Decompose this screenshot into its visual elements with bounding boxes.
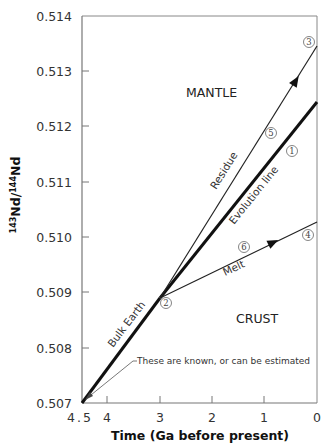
bulk-earth-line xyxy=(82,298,160,403)
svg-text:1: 1 xyxy=(289,146,294,156)
y-tick-label: 0.512 xyxy=(36,119,72,134)
svg-text:4: 4 xyxy=(305,230,310,240)
svg-text:2: 2 xyxy=(163,298,168,308)
melt-arrow-icon xyxy=(266,236,280,249)
y-axis-tick-labels: 0.514 0.513 0.512 0.511 0.510 0.509 0.50… xyxy=(36,9,72,411)
marker-2: 2 xyxy=(161,298,172,309)
x-tick-label: 4 xyxy=(103,410,111,425)
y-tick-label: 0.513 xyxy=(36,64,72,79)
svg-text:6: 6 xyxy=(241,242,246,252)
x-tick-label: 2 xyxy=(208,410,216,425)
marker-3: 3 xyxy=(304,37,315,48)
evolution-line-label: Evolution line xyxy=(226,163,280,226)
nd-isotope-evolution-chart: 0.514 0.513 0.512 0.511 0.510 0.509 0.50… xyxy=(0,0,332,443)
marker-6: 6 xyxy=(239,242,250,253)
x-axis-ticks xyxy=(107,396,264,403)
y-tick-label: 0.510 xyxy=(36,230,72,245)
svg-text:3: 3 xyxy=(306,37,311,47)
marker-5: 5 xyxy=(266,128,277,139)
y-tick-label: 0.511 xyxy=(36,175,72,190)
y-axis-ticks xyxy=(82,71,89,348)
x-axis-title: Time (Ga before present) xyxy=(111,428,289,443)
x-axis-tick-labels: 4.5 4 3 2 1 0 xyxy=(67,410,321,425)
marker-4: 4 xyxy=(303,230,314,241)
residue-label: Residue xyxy=(208,150,240,192)
x-tick-label: 4.5 xyxy=(67,410,93,425)
y-tick-label: 0.508 xyxy=(36,341,72,356)
y-axis-title: 143Nd/144Nd xyxy=(8,157,23,234)
x-tick-label: 0 xyxy=(313,410,321,425)
y-tick-label: 0.514 xyxy=(36,9,72,24)
annotation-note: These are known, or can be estimated xyxy=(136,356,310,366)
x-tick-label: 3 xyxy=(156,410,164,425)
crust-label: CRUST xyxy=(236,311,278,326)
x-tick-label: 1 xyxy=(260,410,268,425)
melt-label: Melt xyxy=(221,257,247,277)
residue-arrow-icon xyxy=(289,74,302,88)
svg-text:5: 5 xyxy=(268,128,273,138)
marker-1: 1 xyxy=(287,146,298,157)
y-tick-label: 0.509 xyxy=(36,285,72,300)
y-tick-label: 0.507 xyxy=(36,396,72,411)
arrowheads xyxy=(266,74,302,249)
note-pointer xyxy=(85,361,137,400)
mantle-label: MANTLE xyxy=(186,85,237,100)
